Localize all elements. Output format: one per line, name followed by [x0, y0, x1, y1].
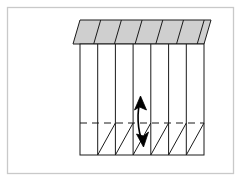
figure-svg [0, 0, 241, 182]
figure-canvas [0, 0, 241, 182]
roof-parallelogram-group [73, 20, 211, 44]
roof-parallelogram [73, 20, 211, 44]
